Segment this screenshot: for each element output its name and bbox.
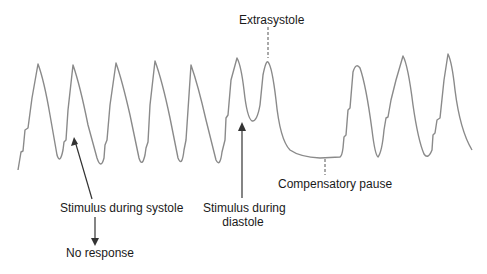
compensatory-pause-label: Compensatory pause: [278, 177, 392, 191]
diagram-canvas: [0, 0, 487, 274]
stimulus-diastole-line2: diastole: [203, 215, 283, 229]
stimulus-systole-arrow: [75, 141, 92, 199]
extrasystole-label: Extrasystole: [239, 13, 304, 27]
no-response-label: No response: [66, 246, 134, 260]
stimulus-systole-arrowhead: [71, 137, 78, 146]
no-response-arrowhead: [91, 238, 99, 246]
stimulus-diastole-arrowhead: [238, 122, 246, 131]
stimulus-diastole-label: Stimulus during diastole: [203, 201, 283, 229]
muscle-contraction-trace: [18, 54, 472, 170]
stimulus-systole-label: Stimulus during systole: [60, 201, 183, 215]
stimulus-diastole-line1: Stimulus during: [203, 201, 283, 215]
